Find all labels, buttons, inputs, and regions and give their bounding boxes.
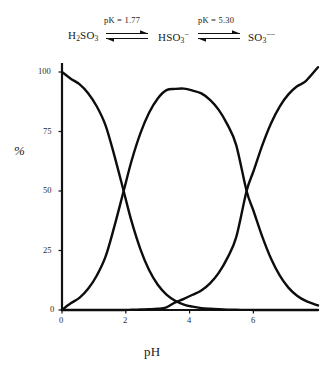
x-axis-title: pH bbox=[144, 344, 161, 360]
y-tick-label-0: 0 bbox=[50, 304, 54, 314]
y-tick-label-25: 25 bbox=[43, 245, 52, 255]
curve-hso3-minus bbox=[62, 89, 318, 310]
x-tick-label-0: 0 bbox=[59, 315, 63, 325]
y-tick-label-100: 100 bbox=[38, 66, 51, 76]
y-tick-label-50: 50 bbox=[43, 185, 52, 195]
x-tick-label-6: 6 bbox=[251, 315, 255, 325]
speciation-figure: H2SO3 pK = 1.77 HSO3− pK = 5.30 bbox=[0, 0, 329, 374]
y-axis-title: % bbox=[14, 143, 25, 159]
x-tick-label-4: 4 bbox=[187, 315, 191, 325]
y-tick-label-75: 75 bbox=[43, 126, 52, 136]
x-tick-label-2: 2 bbox=[123, 315, 127, 325]
